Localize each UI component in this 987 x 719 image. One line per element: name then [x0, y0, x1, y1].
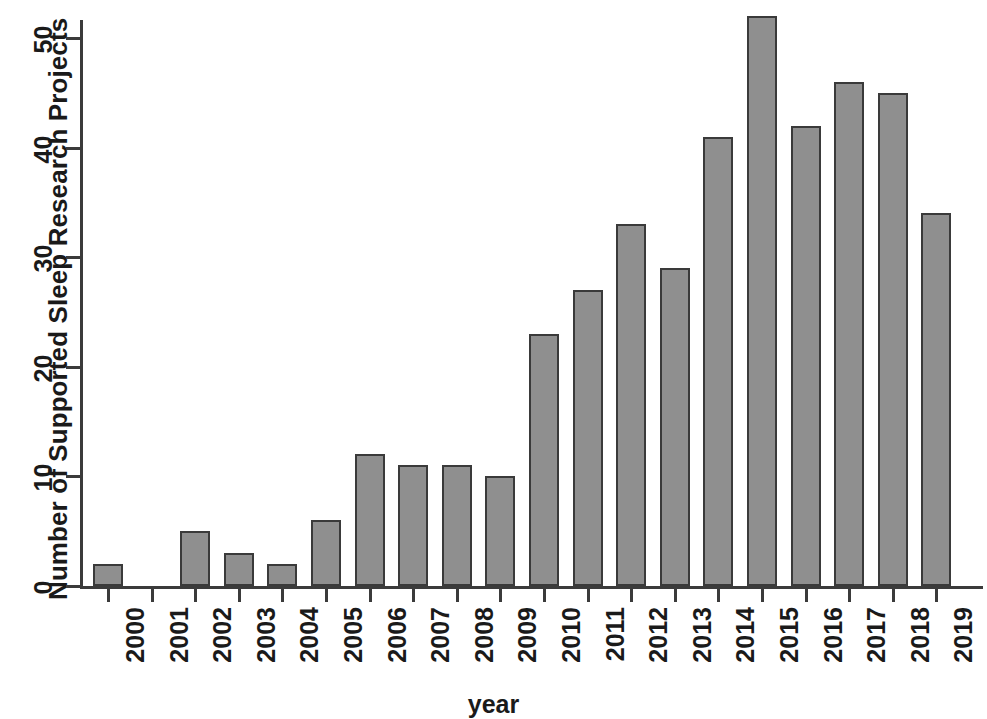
- x-tick-mark: [630, 589, 633, 602]
- x-tick-label: 2005: [339, 607, 365, 717]
- x-tick-label: 2016: [819, 607, 845, 717]
- x-tick-mark: [805, 589, 808, 602]
- x-tick-mark: [587, 589, 590, 602]
- y-tick-label-wrap: 50: [8, 23, 66, 53]
- bar: [573, 290, 603, 586]
- bar: [311, 520, 341, 586]
- x-tick-mark: [456, 589, 459, 602]
- y-tick-mark: [66, 147, 80, 150]
- x-tick-label: 2008: [470, 607, 496, 717]
- x-tick-mark: [325, 589, 328, 602]
- x-tick-mark: [281, 589, 284, 602]
- x-tick-label: 2012: [644, 607, 670, 717]
- y-tick-label-wrap: 30: [8, 242, 66, 272]
- x-tick-label: 2009: [513, 607, 539, 717]
- bar: [398, 465, 428, 586]
- bar: [703, 137, 733, 586]
- bar: [442, 465, 472, 586]
- y-tick-label-wrap: 20: [8, 352, 66, 382]
- x-tick-mark: [107, 589, 110, 602]
- y-tick-label-wrap: 40: [8, 133, 66, 163]
- x-tick-mark: [151, 589, 154, 602]
- x-tick-mark: [499, 589, 502, 602]
- y-tick-mark: [66, 475, 80, 478]
- x-tick-mark: [848, 589, 851, 602]
- x-tick-label: 2013: [688, 607, 714, 717]
- x-tick-mark: [935, 589, 938, 602]
- bar: [224, 553, 254, 586]
- bar: [93, 564, 123, 586]
- x-tick-mark: [717, 589, 720, 602]
- y-tick-label: 30: [29, 236, 58, 282]
- bar: [747, 16, 777, 586]
- y-tick-mark: [66, 37, 80, 40]
- x-tick-mark: [194, 589, 197, 602]
- bar: [355, 454, 385, 586]
- x-tick-mark: [369, 589, 372, 602]
- bar: [529, 334, 559, 586]
- x-tick-mark: [238, 589, 241, 602]
- x-tick-mark: [543, 589, 546, 602]
- y-tick-label: 0: [29, 565, 58, 611]
- y-axis-line: [80, 20, 83, 588]
- y-tick-mark: [66, 366, 80, 369]
- x-tick-label: 2015: [775, 607, 801, 717]
- y-tick-label: 10: [29, 455, 58, 501]
- x-tick-label: 2007: [426, 607, 452, 717]
- y-tick-label: 50: [29, 17, 58, 63]
- x-tick-label: 2006: [383, 607, 409, 717]
- y-tick-label: 20: [29, 345, 58, 391]
- x-tick-label: 2014: [731, 607, 757, 717]
- y-tick-label-wrap: 10: [8, 461, 66, 491]
- y-tick-label: 40: [29, 126, 58, 172]
- x-tick-label: 2011: [601, 607, 627, 717]
- bar: [834, 82, 864, 586]
- x-tick-label: 2010: [557, 607, 583, 717]
- x-tick-mark: [674, 589, 677, 602]
- y-tick-mark: [66, 256, 80, 259]
- bar: [180, 531, 210, 586]
- x-tick-label: 2004: [295, 607, 321, 717]
- y-tick-label-wrap: 0: [8, 571, 66, 601]
- bar: [267, 564, 297, 586]
- bar: [921, 213, 951, 586]
- bar: [485, 476, 515, 586]
- bar: [791, 126, 821, 586]
- x-tick-mark: [412, 589, 415, 602]
- bar: [878, 93, 908, 586]
- x-tick-label: 2000: [121, 607, 147, 717]
- x-tick-label: 2003: [252, 607, 278, 717]
- bar: [616, 224, 646, 586]
- y-tick-mark: [66, 585, 80, 588]
- x-tick-label: 2018: [906, 607, 932, 717]
- x-tick-label: 2019: [949, 607, 975, 717]
- y-axis-title: Number of Supported Sleep Research Proje…: [38, 0, 78, 600]
- bar: [660, 268, 690, 586]
- x-tick-label: 2001: [165, 607, 191, 717]
- x-tick-mark: [892, 589, 895, 602]
- bar-chart: Number of Supported Sleep Research Proje…: [0, 0, 987, 719]
- x-tick-mark: [761, 589, 764, 602]
- x-tick-label: 2017: [862, 607, 888, 717]
- x-tick-label: 2002: [208, 607, 234, 717]
